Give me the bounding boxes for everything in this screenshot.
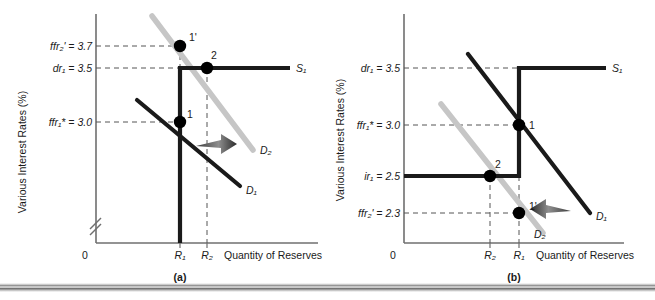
panel-a: Various Interest Rates (%) ffr₂' = 3.7 d… <box>0 0 327 300</box>
panel-b-x-axis-label: Quantity of Reserves <box>536 249 634 261</box>
bottom-divider-rule <box>0 283 655 292</box>
x-tick-label-r1: R₁ <box>175 249 187 261</box>
point-1-marker <box>174 116 186 128</box>
point-2-marker <box>484 170 496 182</box>
point-1-prime-marker <box>174 40 186 52</box>
guide-lines <box>404 68 519 243</box>
point-1-label: 1 <box>529 119 535 131</box>
y-tick-label-ffr1-star: ffr₁* = 3.0 <box>357 119 400 131</box>
panel-b-chart: Various Interest Rates (%) dr₁ = 3.5 ffr… <box>328 0 655 300</box>
origin-label: 0 <box>82 249 88 261</box>
point-1-prime-label: 1' <box>529 200 537 212</box>
panel-a-y-axis-label: Various Interest Rates (%) <box>16 91 28 213</box>
curve-label-d1: D₁ <box>596 210 608 222</box>
curve-label-s1: S₁ <box>612 62 623 74</box>
panel-a-chart: Various Interest Rates (%) ffr₂' = 3.7 d… <box>0 0 327 300</box>
y-tick-label-dr1: dr₁ = 3.5 <box>53 62 92 74</box>
demand-shift-right-arrow-icon <box>196 134 237 154</box>
panel-a-x-axis-label: Quantity of Reserves <box>224 249 322 261</box>
y-tick-label-dr1: dr₁ = 3.5 <box>361 62 400 74</box>
panel-a-caption: (a) <box>174 271 187 283</box>
point-1-label: 1 <box>187 108 193 120</box>
curve-d1 <box>468 54 590 213</box>
panel-b: Various Interest Rates (%) dr₁ = 3.5 ffr… <box>328 0 655 300</box>
point-2-marker <box>201 62 213 74</box>
y-tick-label-ir1: ir₁ = 2.5 <box>364 170 400 182</box>
y-tick-label-ffr1-star: ffr₁* = 3.0 <box>49 116 92 128</box>
panel-b-y-axis-label: Various Interest Rates (%) <box>334 79 346 201</box>
point-2-label: 2 <box>211 49 217 61</box>
point-1-marker <box>513 119 525 131</box>
curve-d2 <box>441 104 543 233</box>
curve-s1 <box>404 68 606 176</box>
x-tick-label-r2: R₂ <box>484 249 496 261</box>
curve-label-d1: D₁ <box>246 184 258 196</box>
curve-s1 <box>180 68 290 243</box>
x-tick-label-r1: R₁ <box>514 249 526 261</box>
x-tick-label-r2: R₂ <box>201 249 213 261</box>
economics-figure: Various Interest Rates (%) ffr₂' = 3.7 d… <box>0 0 655 300</box>
panel-b-caption: (b) <box>507 271 520 283</box>
curve-label-s1: S₁ <box>296 62 307 74</box>
curve-label-d2: D₂ <box>534 228 546 240</box>
origin-label: 0 <box>390 249 396 261</box>
point-1-prime-label: 1' <box>189 31 197 43</box>
curve-label-d2: D₂ <box>260 144 272 156</box>
curve-d2 <box>152 16 253 150</box>
point-2-label: 2 <box>495 158 501 170</box>
y-tick-label-ffr2-prime: ffr₂' = 2.3 <box>358 207 400 219</box>
point-1-prime-marker <box>513 207 525 219</box>
y-tick-label-ffr2-prime: ffr₂' = 3.7 <box>50 40 93 52</box>
